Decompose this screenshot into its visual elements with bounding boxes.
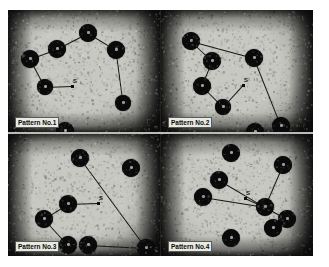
- pattern-node: [215, 99, 231, 115]
- node-specular-highlight: [56, 47, 59, 50]
- pattern-node: [107, 41, 125, 59]
- panel-content: S: [8, 134, 160, 256]
- panel-label-4: Pattern No.4: [168, 241, 212, 252]
- pattern-node: [193, 77, 211, 95]
- panel-content: S: [161, 10, 313, 132]
- pattern-node: [137, 239, 155, 256]
- pattern-node: [203, 52, 221, 70]
- panel-label-3: Pattern No.3: [15, 241, 59, 252]
- node-specular-highlight: [122, 101, 124, 103]
- pattern-node: [21, 50, 39, 68]
- node-specular-highlight: [211, 59, 214, 62]
- panel-row-divider: [8, 132, 313, 134]
- node-specular-highlight: [202, 195, 205, 198]
- pattern-node: [79, 236, 97, 254]
- node-specular-highlight: [130, 166, 133, 169]
- marker-label-s: S: [244, 77, 248, 83]
- node-specular-highlight: [286, 217, 289, 220]
- node-specular-highlight: [253, 56, 256, 59]
- node-specular-highlight: [87, 31, 90, 34]
- pattern-node: [264, 219, 282, 237]
- node-specular-highlight: [190, 39, 193, 42]
- node-specular-highlight: [272, 226, 275, 229]
- pattern-node: [182, 32, 200, 50]
- pattern-edge: [254, 58, 282, 126]
- node-specular-highlight: [280, 124, 283, 127]
- pattern-node: [79, 24, 97, 42]
- node-specular-highlight: [201, 84, 204, 87]
- pattern-node: [210, 171, 228, 189]
- pattern-node: [246, 123, 264, 132]
- pattern-node: [37, 79, 53, 95]
- pattern-node: [272, 117, 290, 132]
- node-specular-highlight: [87, 243, 90, 246]
- pattern-node: [245, 49, 263, 67]
- node-specular-highlight: [218, 178, 221, 181]
- pattern-node: [256, 198, 274, 216]
- pattern-panel-1: SPattern No.1: [8, 10, 160, 132]
- marker-endpoint-dot: [242, 84, 245, 87]
- marker-label-s: S: [246, 190, 250, 196]
- marker-endpoint-dot: [244, 197, 247, 200]
- panel-content: S: [161, 134, 313, 256]
- node-specular-highlight: [145, 246, 148, 249]
- pattern-node: [48, 40, 66, 58]
- pattern-node: [35, 210, 53, 228]
- pattern-node: [115, 95, 131, 111]
- panel-content: S: [8, 10, 160, 132]
- pattern-node: [59, 236, 77, 254]
- node-specular-highlight: [44, 85, 46, 87]
- node-specular-highlight: [29, 57, 32, 60]
- node-specular-highlight: [67, 202, 70, 205]
- pattern-node: [222, 144, 240, 162]
- node-specular-highlight: [222, 105, 224, 107]
- pattern-node: [222, 229, 240, 247]
- marker-label-s: S: [99, 195, 103, 201]
- pattern-node: [194, 188, 212, 206]
- photographic-plate: SPattern No.1 SPattern No.2 SPattern No.…: [8, 10, 313, 256]
- pattern-panel-4: SPattern No.4: [161, 134, 313, 256]
- marker-label-s: S: [73, 78, 77, 84]
- node-specular-highlight: [67, 243, 70, 246]
- node-specular-highlight: [43, 217, 46, 220]
- marker-endpoint-dot: [97, 202, 100, 205]
- node-specular-highlight: [230, 236, 233, 239]
- pattern-node: [59, 195, 77, 213]
- pattern-panel-3: SPattern No.3: [8, 134, 160, 256]
- node-specular-highlight: [230, 151, 233, 154]
- pattern-node: [71, 149, 89, 167]
- pattern-node: [274, 156, 292, 174]
- pattern-node: [122, 159, 140, 177]
- node-specular-highlight: [115, 48, 118, 51]
- figure-root: SPattern No.1 SPattern No.2 SPattern No.…: [0, 0, 329, 267]
- pattern-panel-2: SPattern No.2: [161, 10, 313, 132]
- panel-label-2: Pattern No.2: [168, 117, 212, 128]
- node-specular-highlight: [282, 163, 285, 166]
- node-specular-highlight: [264, 205, 267, 208]
- marker-endpoint-dot: [71, 85, 74, 88]
- node-specular-highlight: [79, 156, 82, 159]
- panel-label-1: Pattern No.1: [15, 117, 59, 128]
